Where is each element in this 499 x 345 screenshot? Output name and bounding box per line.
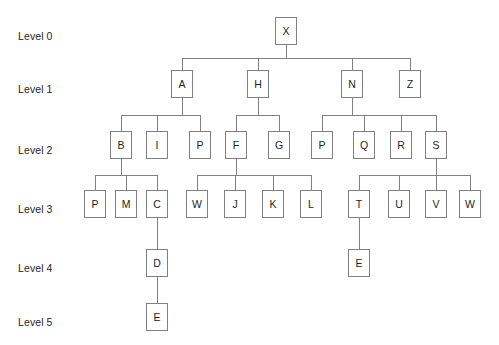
tree-node-s-l2[interactable]: S [425,131,447,159]
tree-node-p-l2[interactable]: P [189,131,211,159]
tree-node-i-l2[interactable]: I [146,131,168,159]
level-label-2: Level 2 [18,144,53,156]
level-label-5: Level 5 [18,316,53,328]
level-label-0: Level 0 [18,30,53,42]
tree-node-x-l0[interactable]: X [275,17,297,45]
tree-node-p-l2[interactable]: P [311,131,333,159]
tree-node-t-l3[interactable]: T [348,190,370,218]
tree-node-n-l1[interactable]: N [341,70,363,98]
tree-node-u-l3[interactable]: U [388,190,410,218]
tree-node-l-l3[interactable]: L [300,190,322,218]
tree-node-q-l2[interactable]: Q [353,131,375,159]
tree-node-m-l3[interactable]: M [115,190,137,218]
tree-node-a-l1[interactable]: A [171,70,193,98]
tree-node-p-l3[interactable]: P [84,190,106,218]
tree-node-k-l3[interactable]: K [262,190,284,218]
tree-node-j-l3[interactable]: J [224,190,246,218]
tree-node-v-l3[interactable]: V [425,190,447,218]
tree-node-w-l3[interactable]: W [459,190,481,218]
level-label-4: Level 4 [18,262,53,274]
tree-node-f-l2[interactable]: F [225,131,247,159]
tree-node-d-l4[interactable]: D [146,249,168,277]
tree-node-b-l2[interactable]: B [110,131,132,159]
tree-node-e-l4[interactable]: E [348,249,370,277]
tree-node-h-l1[interactable]: H [247,70,269,98]
tree-node-r-l2[interactable]: R [390,131,412,159]
tree-diagram-canvas: Level 0Level 1Level 2Level 3Level 4Level… [0,0,499,345]
level-label-1: Level 1 [18,83,53,95]
tree-edge-layer [0,0,499,345]
tree-node-c-l3[interactable]: C [146,190,168,218]
level-label-3: Level 3 [18,203,53,215]
tree-node-z-l1[interactable]: Z [399,70,421,98]
tree-node-g-l2[interactable]: G [268,131,290,159]
tree-node-w-l3[interactable]: W [186,190,208,218]
tree-node-e-l5[interactable]: E [146,303,168,331]
